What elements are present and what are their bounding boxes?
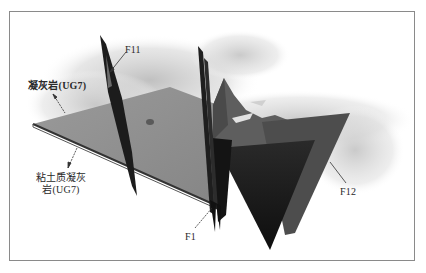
label-fault-f1: F1 <box>185 231 196 243</box>
label-fault-f12: F12 <box>340 186 356 198</box>
leader-f1 <box>195 208 212 228</box>
geological-model-scene <box>0 0 426 273</box>
label-fault-f11: F11 <box>125 44 141 56</box>
label-tuff: 凝灰岩(UG7) <box>28 80 86 92</box>
label-clay-tuff: 粘土质凝灰岩(UG7) <box>35 172 87 196</box>
plane-marker <box>146 119 154 125</box>
